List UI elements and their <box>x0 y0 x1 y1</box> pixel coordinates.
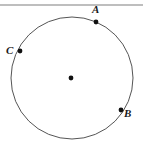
figure-background <box>0 0 143 148</box>
point-b <box>119 108 124 113</box>
point-a-label: A <box>92 4 99 15</box>
circle-center-dot <box>69 76 74 81</box>
geometry-canvas <box>0 0 143 148</box>
point-c <box>18 49 23 54</box>
point-b-label: B <box>124 108 131 119</box>
point-c-label: C <box>6 45 13 56</box>
geometry-figure: A C B <box>0 0 143 148</box>
point-a <box>94 20 99 25</box>
